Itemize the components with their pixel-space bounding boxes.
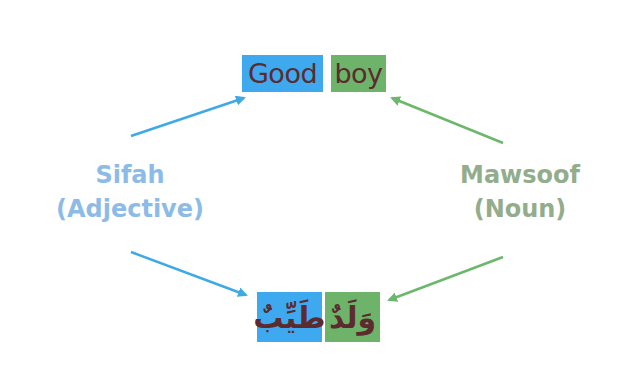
mawsoof-to-arabic-arrow-icon — [389, 257, 503, 300]
arabic-noun-box: وَلَدٌ — [325, 292, 380, 342]
sifah-label: Sifah (Adjective) — [20, 158, 240, 226]
english-noun-box: boy — [331, 55, 386, 92]
sifah-label-subtitle: (Adjective) — [20, 192, 240, 226]
sifah-to-english-arrow-icon — [131, 98, 244, 136]
sifah-to-arabic-arrow-icon — [131, 252, 246, 295]
english-adjective-word: Good — [248, 58, 317, 89]
arabic-adjective-box: طَيِّبٌ — [257, 292, 322, 342]
mawsoof-label-title: Mawsoof — [420, 158, 620, 192]
mawsoof-to-english-arrow-icon — [392, 98, 503, 143]
mawsoof-label-subtitle: (Noun) — [420, 192, 620, 226]
arabic-noun-word: وَلَدٌ — [329, 300, 376, 335]
mawsoof-label: Mawsoof (Noun) — [420, 158, 620, 226]
sifah-label-title: Sifah — [20, 158, 240, 192]
arabic-adjective-word: طَيِّبٌ — [253, 300, 325, 335]
english-adjective-box: Good — [242, 55, 323, 92]
english-noun-word: boy — [334, 58, 382, 89]
